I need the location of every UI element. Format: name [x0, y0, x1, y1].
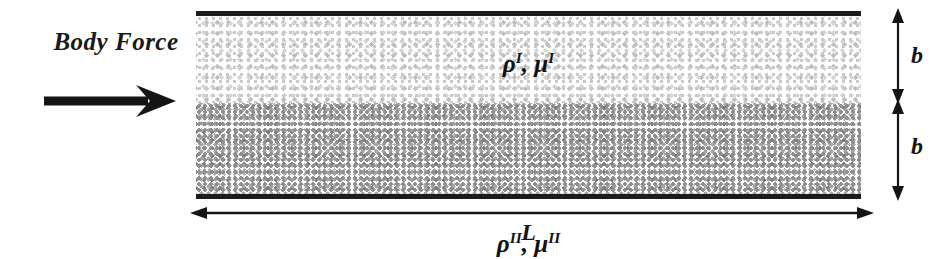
body-force-arrow-icon: [40, 84, 180, 122]
fluid-layer-upper: ρI, μI: [196, 15, 861, 103]
fluid-label-upper: ρI, μI: [196, 50, 861, 78]
superscript-upper-viscosity: I: [548, 49, 554, 66]
body-force-label: Body Force: [36, 28, 196, 56]
channel-body: ρI, μI ρII, μII: [196, 11, 861, 199]
bottom-wall: [196, 194, 861, 199]
dimension-label-b-lower: b: [911, 133, 923, 160]
dimension-label-b-upper: b: [911, 42, 923, 69]
dimension-arrow-b-lower-icon: [886, 99, 910, 205]
fluid-layer-lower: ρII, μII: [196, 103, 861, 195]
label-comma-upper: ,: [522, 50, 535, 77]
viscosity-symbol-upper: μ: [534, 50, 548, 77]
dimension-label-length: L: [196, 219, 861, 246]
channel-flow-figure: Body Force ρI, μI ρII, μII b: [0, 0, 939, 259]
top-wall: [196, 11, 861, 16]
density-symbol-upper: ρ: [503, 50, 516, 77]
dimension-arrow-b-upper-icon: [886, 8, 910, 108]
